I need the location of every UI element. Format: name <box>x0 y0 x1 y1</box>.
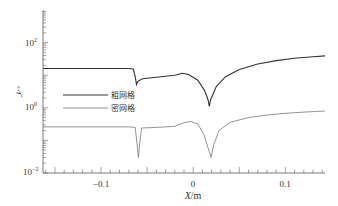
legend-label-coarse: 粗网格 <box>111 90 135 100</box>
ytick-label-1: 100 <box>25 101 37 112</box>
y-axis-label: y+ <box>12 84 26 98</box>
x-ticks <box>46 167 322 173</box>
xtick-label-neg0.1: −0.1 <box>93 179 109 189</box>
xtick-label-0: 0 <box>191 179 196 189</box>
legend-label-fine: 密网格 <box>111 103 135 113</box>
ytick-label-100: 102 <box>25 37 37 48</box>
series-fine-grid-line <box>43 111 325 157</box>
chart: 102 100 10−2 −0.1 0 0.1 X/m y+ 粗网格 密网格 <box>0 0 338 206</box>
series-coarse-grid-line <box>43 56 325 107</box>
xtick-label-0.1: 0.1 <box>279 179 290 189</box>
legend: 粗网格 密网格 <box>63 90 135 113</box>
y-ticks <box>43 11 48 173</box>
axes <box>43 10 325 173</box>
ytick-label-0.01: 10−2 <box>23 166 38 177</box>
x-axis-label: X/m <box>184 190 202 201</box>
